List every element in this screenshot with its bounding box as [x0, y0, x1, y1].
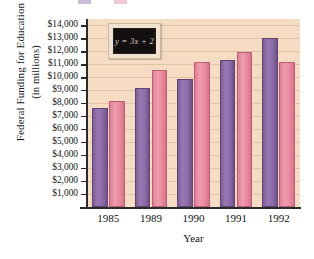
x-axis-tick-label: 1991 [214, 212, 258, 224]
bar [237, 52, 253, 207]
y-axis-tick-label: $9,000 [30, 84, 78, 94]
y-axis-tick [81, 181, 87, 182]
bar [177, 79, 193, 207]
bar [279, 62, 295, 207]
x-axis-title: Year [87, 232, 300, 244]
y-axis-tick [81, 155, 87, 156]
y-axis-tick-label: $1,000 [30, 188, 78, 198]
y-axis-tick-label: $11,000 [30, 58, 78, 68]
chalkboard-equation-text: y = 3x + 2 [115, 36, 154, 46]
y-axis-tick [81, 168, 87, 169]
x-axis-tick-label: 1992 [257, 212, 301, 224]
x-axis-tick-label: 1985 [86, 212, 130, 224]
x-axis-line [80, 207, 301, 209]
y-axis-tick [81, 64, 87, 65]
y-axis-tick-label: $3,000 [30, 162, 78, 172]
y-axis-tick-label: $13,000 [30, 32, 78, 42]
y-axis-tick [81, 103, 87, 104]
y-axis-tick-label: $14,000 [30, 19, 78, 29]
y-axis-tick [81, 77, 87, 78]
y-axis-tick-label: $7,000 [30, 110, 78, 120]
bar [194, 62, 210, 207]
y-axis-tick [81, 38, 87, 39]
bar [152, 70, 168, 207]
y-axis-tick-label: $8,000 [30, 97, 78, 107]
y-axis-tick [81, 90, 87, 91]
legend-swatch-series-2 [114, 0, 127, 4]
legend-cropped [78, 0, 148, 5]
y-axis-tick [81, 116, 87, 117]
y-axis-tick [81, 194, 87, 195]
y-axis-title-line1: Federal Funding for Education [13, 0, 28, 172]
bar [109, 101, 125, 207]
y-axis-tick-label: $4,000 [30, 149, 78, 159]
bar [262, 38, 278, 207]
y-axis-tick [81, 129, 87, 130]
chart-figure: Federal Funding for Education (in millio… [0, 0, 314, 259]
y-axis-tick-label: $6,000 [30, 123, 78, 133]
y-axis-tick [81, 142, 87, 143]
bar [220, 60, 236, 207]
x-axis-tick-label: 1989 [129, 212, 173, 224]
legend-swatch-series-1 [78, 0, 91, 4]
y-axis-tick [81, 25, 87, 26]
x-axis-tick-label: 1990 [172, 212, 216, 224]
bar [135, 88, 151, 207]
y-axis-tick-label: $12,000 [30, 45, 78, 55]
chalkboard-panel: y = 3x + 2 [113, 28, 156, 54]
bar [92, 108, 108, 207]
chalkboard-annotation: y = 3x + 2 [108, 23, 161, 59]
y-axis-tick [81, 51, 87, 52]
y-axis-tick-label: $10,000 [30, 71, 78, 81]
y-axis-tick-label: $2,000 [30, 175, 78, 185]
y-axis-tick-label: $5,000 [30, 136, 78, 146]
